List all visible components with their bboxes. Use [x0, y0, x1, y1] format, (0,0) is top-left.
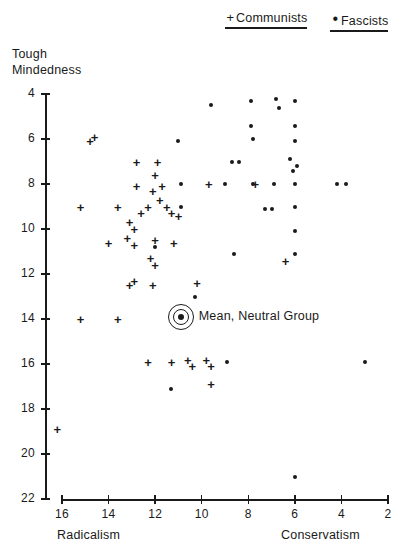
y-tick-label: 16: [13, 356, 35, 370]
y-tick-mark: [41, 363, 50, 365]
data-point-communist: +: [193, 277, 201, 290]
data-point-fascist: [293, 99, 297, 103]
legend-label-fascists: Fascists: [341, 14, 388, 28]
data-point-fascist: [291, 169, 295, 173]
data-point-fascist: [293, 475, 297, 479]
data-point-communist: +: [133, 155, 141, 168]
data-point-fascist: [293, 124, 297, 128]
y-tick-label: 22: [13, 491, 35, 505]
data-point-communist: +: [151, 259, 159, 272]
x-tick-label: 12: [144, 507, 166, 521]
y-tick-mark: [41, 318, 50, 320]
data-point-fascist: [251, 137, 255, 141]
data-point-fascist: [270, 207, 274, 211]
data-point-communist: +: [144, 355, 152, 368]
data-point-fascist: [193, 295, 197, 299]
y-tick-mark: [41, 138, 50, 140]
data-point-fascist: [225, 360, 229, 364]
data-point-fascist: [251, 182, 255, 186]
dot-marker-icon: •: [330, 10, 341, 28]
data-point-fascist: [293, 205, 297, 209]
x-tick-label: 6: [284, 507, 306, 521]
legend-item-communists: +Communists: [225, 10, 307, 29]
y-tick-mark: [41, 183, 50, 185]
y-tick-mark: [41, 498, 50, 500]
x-tick-mark: [248, 495, 250, 504]
data-point-communist: +: [114, 200, 122, 213]
data-point-fascist: [179, 182, 183, 186]
data-point-fascist: [293, 182, 297, 186]
data-point-communist: +: [130, 238, 138, 251]
x-axis-line: [62, 499, 388, 501]
x-tick-mark: [387, 495, 389, 504]
data-point-fascist: [223, 182, 227, 186]
data-point-communist: +: [168, 355, 176, 368]
data-point-fascist: [263, 207, 267, 211]
y-tick-label: 12: [13, 266, 35, 280]
y-tick-label: 14: [13, 311, 35, 325]
y-tick-mark: [41, 273, 50, 275]
x-axis-title-conservatism: Conservatism: [281, 528, 360, 542]
data-point-fascist: [274, 97, 278, 101]
y-tick-label: 20: [13, 446, 35, 460]
x-tick-mark: [108, 495, 110, 504]
x-tick-label: 14: [98, 507, 120, 521]
data-point-fascist: [179, 205, 183, 209]
data-point-fascist: [176, 139, 180, 143]
x-tick-label: 10: [191, 507, 213, 521]
y-tick-mark: [41, 93, 50, 95]
data-point-fascist: [277, 106, 281, 110]
legend: +Communists •Fascists: [0, 10, 403, 36]
data-point-fascist: [237, 160, 241, 164]
x-tick-mark: [61, 495, 63, 504]
x-tick-mark: [201, 495, 203, 504]
data-point-fascist: [363, 360, 367, 364]
y-tick-label: 18: [13, 401, 35, 415]
y-tick-label: 10: [13, 221, 35, 235]
data-point-communist: +: [54, 423, 62, 436]
data-point-communist: +: [77, 313, 85, 326]
y-axis-title: ToughMindedness: [12, 46, 81, 78]
data-point-communist: +: [91, 130, 99, 143]
x-tick-label: 8: [237, 507, 259, 521]
scatter-plot-figure: +Communists •Fascists ToughMindedness Ra…: [0, 0, 403, 551]
data-point-fascist: [232, 252, 236, 256]
x-tick-mark: [154, 495, 156, 504]
data-point-communist: +: [154, 155, 162, 168]
data-point-communist: +: [137, 207, 145, 220]
y-tick-mark: [41, 228, 50, 230]
data-point-communist: +: [114, 313, 122, 326]
x-tick-label: 16: [51, 507, 73, 521]
data-point-communist: +: [205, 178, 213, 191]
data-point-fascist: [293, 229, 297, 233]
data-point-communist: +: [130, 274, 138, 287]
data-point-communist: +: [207, 360, 215, 373]
data-point-communist: +: [149, 279, 157, 292]
legend-label-communists: Communists: [236, 11, 307, 25]
data-point-fascist: [153, 245, 157, 249]
data-point-fascist: [293, 139, 297, 143]
data-point-communist: +: [105, 236, 113, 249]
data-point-fascist: [249, 99, 253, 103]
data-point-communist: +: [133, 180, 141, 193]
x-tick-mark: [341, 495, 343, 504]
data-point-fascist: [209, 103, 213, 107]
data-point-fascist: [293, 252, 297, 256]
data-point-fascist: [344, 182, 348, 186]
data-point-communist: +: [130, 223, 138, 236]
data-point-communist: +: [189, 360, 197, 373]
data-point-communist: +: [144, 200, 152, 213]
y-tick-label: 6: [13, 131, 35, 145]
mean-annotation-label: Mean, Neutral Group: [199, 309, 320, 323]
x-axis-title-radicalism: Radicalism: [57, 528, 120, 542]
y-tick-label: 8: [13, 176, 35, 190]
data-point-communist: +: [282, 254, 290, 267]
data-point-communist: +: [77, 200, 85, 213]
bullseye-icon: [168, 304, 194, 330]
data-point-fascist: [295, 164, 299, 168]
data-point-fascist: [169, 387, 173, 391]
data-point-fascist: [272, 182, 276, 186]
data-point-communist: +: [170, 236, 178, 249]
data-point-communist: +: [207, 378, 215, 391]
data-point-communist: +: [158, 180, 166, 193]
